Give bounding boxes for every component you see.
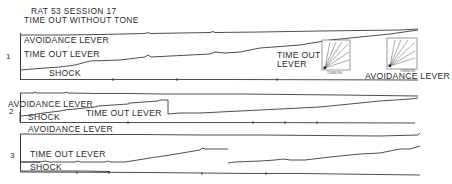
- timeout-rate-scale-inset: 75 MINUTES: [322, 40, 350, 75]
- cumulative-record-figure: RAT 53 SESSION 17 TIME OUT WITHOUT TONE …: [0, 0, 452, 184]
- record-2-shock-line: [20, 123, 415, 124]
- avoidance-inset-x-label: 75 MINUTES: [400, 69, 416, 73]
- record-3-avoidance-label: AVOIDANCE LEVER: [28, 124, 113, 134]
- record-3-timeout-trace-b: [228, 146, 420, 163]
- timeout-inset-x-label: 75 MINUTES: [327, 71, 343, 75]
- record-1-shock-label: SHOCK: [49, 68, 81, 78]
- record-number: 1: [6, 52, 11, 61]
- avoidance-rate-scale-inset: 75 MINUTES: [387, 38, 417, 73]
- record-3-shock-label: SHOCK: [30, 162, 62, 172]
- record-2-shock-label: SHOCK: [28, 112, 60, 122]
- record-3-number: 3: [10, 151, 15, 160]
- record-2-number-label: 2: [9, 107, 14, 116]
- record-2: AVOIDANCE LEVER 2 SHOCK TIME OUT LEVER: [8, 92, 418, 124]
- record-1: 1 AVOIDANCE LEVER TIME OUT LEVER SHOCK T…: [6, 29, 450, 81]
- record-1-timeout-label: TIME OUT LEVER: [24, 49, 100, 59]
- record-3-shock-line: [20, 172, 420, 175]
- record-1-timeout-label-right-2: LEVER: [277, 59, 307, 69]
- record-2-avoidance-trace: [20, 92, 418, 96]
- record-2-timeout-label: TIME OUT LEVER: [86, 108, 162, 118]
- record-1-avoidance-label: AVOIDANCE LEVER: [24, 35, 109, 45]
- record-3: AVOIDANCE LEVER 3 TIME OUT LEVER SHOCK: [10, 124, 420, 175]
- figure-subtitle: TIME OUT WITHOUT TONE: [24, 15, 139, 25]
- record-3-timeout-label: TIME OUT LEVER: [30, 149, 106, 159]
